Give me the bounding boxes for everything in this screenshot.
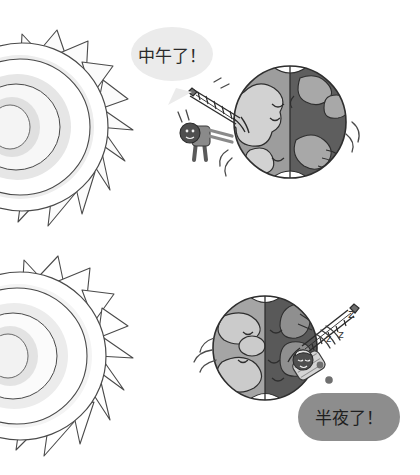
globe-noon [220,56,360,190]
thought-dot-2 [325,376,333,384]
speech-bubble-tail [168,88,192,105]
thought-dot-1 [317,362,324,369]
panel-midnight: z z z 半夜了！ [0,238,420,475]
speech-bubble-midnight: 半夜了！ [298,393,400,441]
speech-bubble-midnight-text: 半夜了！ [315,408,383,428]
sleep-mark-2: z [338,328,344,341]
person-motion-ticks [178,110,189,122]
sleep-mark-1: z [348,306,355,321]
sun-midnight [0,256,133,456]
person-head [180,123,200,143]
sleep-mark-3: z [326,333,331,344]
sleep-marks: z z z [326,306,355,344]
tower-motion-ticks [214,78,229,88]
globe-night-half [290,60,360,190]
globe-midnight [194,287,329,414]
speech-bubble-noon-text: 中午了！ [138,46,206,66]
comic-illustration: 中午了！ [0,0,420,475]
panel-noon: 中午了！ [0,0,420,238]
sun-noon [0,30,133,226]
